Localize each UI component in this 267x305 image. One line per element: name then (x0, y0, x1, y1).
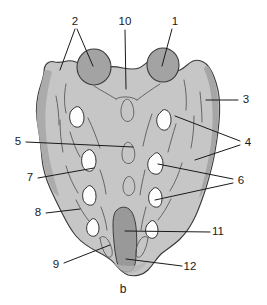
label-7: 7 (27, 171, 33, 183)
foramen-left-s3 (83, 186, 96, 206)
sacrum-illustration: 1 2 3 4 5 6 7 8 9 10 11 12 b (0, 0, 267, 305)
label-9: 9 (53, 258, 59, 270)
label-2: 2 (72, 15, 78, 27)
label-3: 3 (243, 93, 249, 105)
label-1: 1 (172, 15, 178, 27)
label-4: 4 (245, 136, 252, 148)
sacral-canal-hiatus (113, 207, 137, 272)
label-6: 6 (238, 174, 244, 186)
right-superior-articular-process (147, 48, 179, 82)
label-10: 10 (119, 15, 132, 27)
anatomical-figure-sacrum-posterior: 1 2 3 4 5 6 7 8 9 10 11 12 b (0, 0, 267, 305)
label-8: 8 (35, 206, 41, 218)
label-11: 11 (212, 225, 224, 237)
bone-group (37, 48, 220, 276)
figure-caption-letter: b (120, 282, 127, 296)
left-superior-articular-process (77, 49, 111, 85)
foramen-left-s1 (70, 107, 84, 128)
label-12: 12 (184, 260, 197, 272)
foramen-right-s3 (149, 188, 162, 208)
label-5: 5 (15, 135, 21, 147)
